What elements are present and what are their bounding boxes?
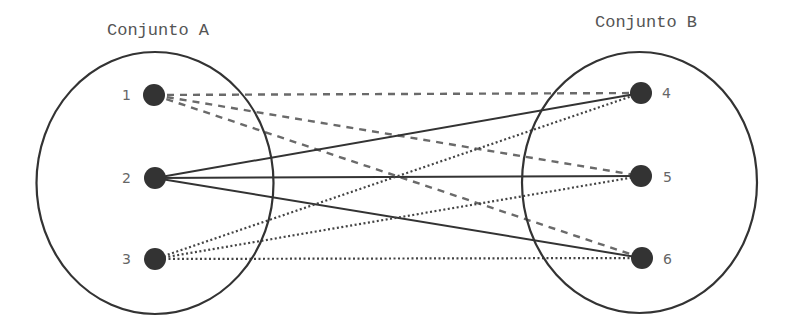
node-1: 1: [122, 84, 165, 106]
node-2: 2: [122, 167, 166, 189]
node-4-dot: [630, 82, 652, 104]
set-a-title: Conjunto A: [107, 21, 210, 40]
node-3-label: 3: [122, 251, 131, 267]
node-5-label: 5: [663, 169, 672, 185]
edges-layer: [154, 93, 642, 259]
node-4-label: 4: [662, 85, 671, 101]
edge-1-to-4: [154, 93, 641, 95]
node-5-dot: [630, 165, 652, 187]
node-6: 6: [631, 247, 672, 269]
set-a: Conjunto A 1 2 3: [37, 21, 274, 314]
node-3: 3: [122, 248, 166, 270]
set-mapping-diagram: Conjunto A 1 2 3 Conjunto B 4 5 6: [0, 0, 791, 333]
node-1-label: 1: [122, 87, 131, 103]
set-b-title: Conjunto B: [595, 13, 697, 32]
edge-3-to-6: [155, 258, 642, 259]
node-2-dot: [144, 167, 166, 189]
node-5: 5: [630, 165, 672, 187]
edge-2-to-4: [155, 93, 641, 178]
node-3-dot: [144, 248, 166, 270]
node-2-label: 2: [122, 170, 131, 186]
node-6-dot: [631, 247, 653, 269]
node-6-label: 6: [663, 251, 672, 267]
edge-2-to-6: [155, 178, 642, 258]
node-4: 4: [630, 82, 671, 104]
node-1-dot: [143, 84, 165, 106]
